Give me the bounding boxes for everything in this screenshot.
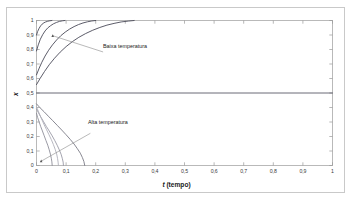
x-tick-label: 0,1 (56, 168, 76, 174)
x-tick-label: 0 (27, 168, 47, 174)
x-tick-label: 0,5 (175, 168, 195, 174)
x-tick-label: 0,9 (293, 168, 313, 174)
y-tick-label: 0,9 (13, 32, 34, 38)
y-tick-label: 1 (13, 17, 34, 23)
y-tick-label: 0,8 (13, 46, 34, 52)
chart-figure: 00,10,20,30,40,50,60,70,80,91 00,10,20,3… (0, 0, 353, 203)
y-tick-label: 0,1 (13, 148, 34, 154)
annotation-alta-temperatura: Alta temperatura (88, 119, 128, 125)
x-tick-label: 0,3 (115, 168, 135, 174)
y-tick-label: 0,4 (13, 104, 34, 110)
annotation-baixa-temperatura: Baixa temperatura (103, 43, 147, 49)
y-tick-label: 0,6 (13, 75, 34, 81)
x-tick-label: 0,2 (86, 168, 106, 174)
y-tick-label: 0,2 (13, 133, 34, 139)
x-tick-label: 0,4 (145, 168, 165, 174)
x-tick-label: 1 (323, 168, 343, 174)
x-axis-title-text: (tempo) (165, 181, 191, 188)
x-tick-label: 0,8 (263, 168, 283, 174)
x-tick-label: 0,7 (234, 168, 254, 174)
y-tick-label: 0,3 (13, 119, 34, 125)
x-tick-label: 0,6 (204, 168, 224, 174)
y-axis-title: x (12, 92, 19, 96)
y-tick-label: 0,7 (13, 61, 34, 67)
x-axis-title: t (tempo) (0, 181, 353, 188)
